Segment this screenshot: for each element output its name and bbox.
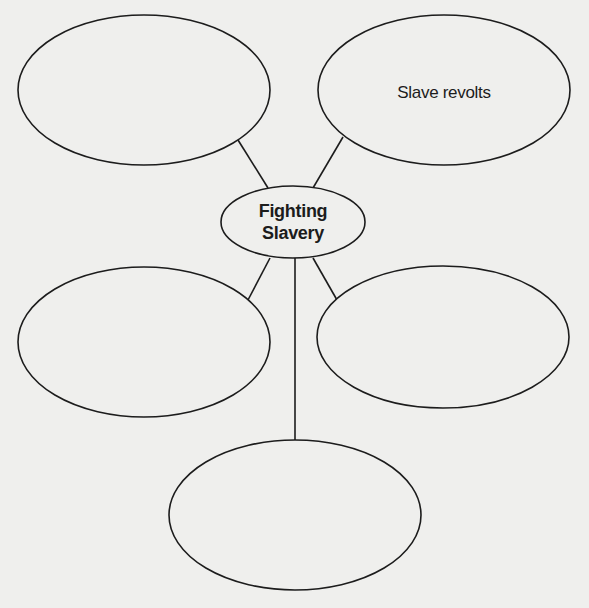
connector-middle-left [248, 258, 270, 300]
connector-top-left [238, 140, 268, 188]
connector-top-right [313, 137, 343, 188]
diagram-canvas [0, 0, 589, 608]
bubble-top-right[interactable] [318, 15, 570, 165]
connector-middle-right [313, 258, 337, 300]
bubble-bottom[interactable] [169, 440, 421, 590]
bubble-top-left[interactable] [18, 15, 270, 165]
bubble-middle-right[interactable] [317, 266, 569, 408]
bubble-middle-left[interactable] [18, 267, 270, 417]
bubble-center [221, 186, 365, 258]
